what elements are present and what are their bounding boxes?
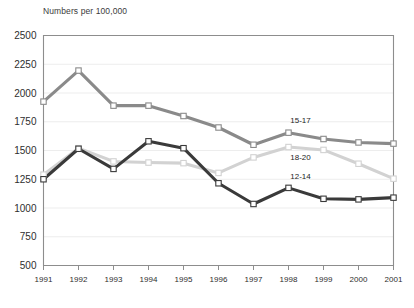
data-point-marker xyxy=(146,139,151,144)
chart-plot-area: 2500225020001750150012501000750500 19911… xyxy=(0,0,414,308)
y-tick-label: 1750 xyxy=(14,116,37,127)
data-point-marker xyxy=(286,144,291,149)
data-point-marker xyxy=(181,146,186,151)
data-point-marker xyxy=(286,130,291,135)
y-tick-label: 1000 xyxy=(14,203,37,214)
x-tick-label: 2001 xyxy=(385,275,403,284)
x-tick-label: 1994 xyxy=(140,275,158,284)
y-tick-label: 1500 xyxy=(14,145,37,156)
y-axis-ticks: 2500225020001750150012501000750500 xyxy=(14,30,37,271)
data-point-marker xyxy=(321,136,326,141)
series-label-12-14: 12-14 xyxy=(290,172,311,181)
data-point-marker xyxy=(76,68,81,73)
x-axis-ticks: 1991199219931994199519961997199819992000… xyxy=(35,266,403,284)
x-tick-label: 1998 xyxy=(280,275,298,284)
x-tick-label: 1996 xyxy=(210,275,228,284)
data-point-marker xyxy=(356,140,361,145)
data-point-marker xyxy=(251,142,256,147)
x-tick-label: 1991 xyxy=(35,275,53,284)
data-point-marker xyxy=(181,160,186,165)
data-point-marker xyxy=(146,103,151,108)
data-point-marker xyxy=(111,159,116,164)
data-point-marker xyxy=(216,181,221,186)
data-point-marker xyxy=(356,161,361,166)
data-point-marker xyxy=(216,125,221,130)
line-chart: Numbers per 100,000 25002250200017501500… xyxy=(0,0,414,308)
data-point-marker xyxy=(391,141,396,146)
data-point-marker xyxy=(356,197,361,202)
y-tick-label: 2000 xyxy=(14,88,37,99)
series-line-15-17 xyxy=(44,71,394,145)
y-tick-label: 1250 xyxy=(14,174,37,185)
series-label-15-17: 15-17 xyxy=(290,116,311,125)
x-tick-label: 1997 xyxy=(245,275,263,284)
y-tick-label: 500 xyxy=(20,260,37,271)
x-tick-label: 1999 xyxy=(315,275,333,284)
data-point-marker xyxy=(111,166,116,171)
data-point-marker xyxy=(181,113,186,118)
data-point-marker xyxy=(321,147,326,152)
data-point-marker xyxy=(216,170,221,175)
data-point-marker xyxy=(111,103,116,108)
y-tick-label: 750 xyxy=(20,231,37,242)
y-tick-label: 2500 xyxy=(14,30,37,41)
y-tick-label: 2250 xyxy=(14,59,37,70)
data-point-marker xyxy=(41,99,46,104)
series-markers xyxy=(41,68,396,207)
data-point-marker xyxy=(286,185,291,190)
data-point-marker xyxy=(251,201,256,206)
data-point-marker xyxy=(146,160,151,165)
x-tick-label: 2000 xyxy=(350,275,368,284)
data-point-marker xyxy=(391,195,396,200)
data-point-marker xyxy=(41,177,46,182)
data-point-marker xyxy=(76,146,81,151)
data-point-marker xyxy=(321,196,326,201)
data-point-marker xyxy=(251,155,256,160)
series-label-18-20: 18-20 xyxy=(290,153,311,162)
x-tick-label: 1995 xyxy=(175,275,193,284)
x-tick-label: 1993 xyxy=(105,275,123,284)
data-point-marker xyxy=(391,176,396,181)
x-tick-label: 1992 xyxy=(70,275,88,284)
